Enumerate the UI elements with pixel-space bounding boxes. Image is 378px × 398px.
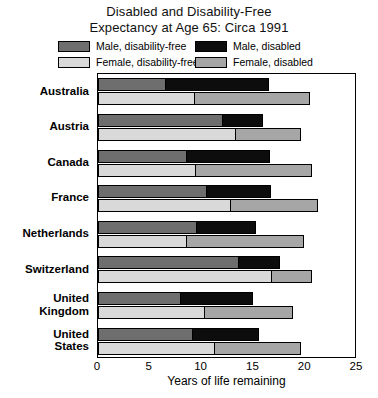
bar-segment-female-disability-free[interactable] (98, 128, 236, 141)
x-axis-ticks: 0510152025 (97, 359, 356, 375)
legend-swatch-male-disabled (195, 41, 227, 52)
y-axis-label-canada: Canada (47, 156, 89, 169)
y-axis-category-labels: AustraliaAustriaCanadaFranceNetherlandsS… (0, 73, 93, 358)
y-axis-label-united-states: United States (53, 328, 89, 353)
bar-segment-female-disabled[interactable] (194, 92, 310, 105)
bar-segment-female-disabled[interactable] (195, 164, 312, 177)
legend-swatch-female-disability-free (58, 57, 90, 68)
y-axis-label-france: France (51, 191, 89, 204)
bar-segment-female-disability-free[interactable] (98, 306, 205, 319)
y-axis-label-switzerland: Switzerland (25, 263, 89, 276)
bar-segment-female-disabled[interactable] (271, 270, 312, 283)
y-axis-label-united-kingdom: United Kingdom (39, 292, 89, 317)
bar-male[interactable] (98, 221, 255, 234)
legend-label-male-disability-free: Male, disability-free (96, 40, 186, 52)
bar-male[interactable] (98, 114, 262, 127)
bar-segment-male-disability-free[interactable] (98, 185, 207, 198)
legend-swatch-male-disability-free (58, 41, 90, 52)
bar-segment-male-disabled[interactable] (222, 114, 262, 127)
bar-segment-female-disabled[interactable] (230, 199, 318, 212)
bar-female[interactable] (98, 235, 303, 248)
bar-female[interactable] (98, 164, 311, 177)
bar-female[interactable] (98, 342, 300, 355)
x-axis-tick-0: 0 (94, 359, 100, 373)
bar-male[interactable] (98, 78, 268, 91)
bars-container (98, 74, 355, 357)
x-axis-tick-10: 10 (194, 359, 207, 373)
bar-female[interactable] (98, 306, 292, 319)
legend-label-male-disabled: Male, disabled (233, 40, 301, 52)
bar-segment-female-disabled[interactable] (204, 306, 293, 319)
bar-segment-female-disability-free[interactable] (98, 235, 187, 248)
chart-legend: Male, disability-free Male, disabled Fem… (58, 38, 358, 70)
bar-male[interactable] (98, 185, 270, 198)
bar-segment-male-disabled[interactable] (180, 292, 254, 305)
chart-title: Disabled and Disability-Free Expectancy … (0, 4, 378, 36)
x-axis-tick-15: 15 (246, 359, 259, 373)
bar-segment-male-disability-free[interactable] (98, 150, 187, 163)
y-axis-label-netherlands: Netherlands (23, 227, 89, 240)
bar-segment-female-disability-free[interactable] (98, 164, 196, 177)
bar-segment-male-disabled[interactable] (192, 328, 258, 341)
bar-segment-male-disability-free[interactable] (98, 221, 197, 234)
bar-segment-female-disabled[interactable] (214, 342, 301, 355)
legend-item-female-disabled: Female, disabled (195, 56, 358, 68)
x-axis-tick-20: 20 (298, 359, 311, 373)
bar-segment-male-disabled[interactable] (238, 256, 280, 269)
bar-male[interactable] (98, 256, 279, 269)
bar-segment-female-disability-free[interactable] (98, 270, 272, 283)
legend-item-male-disability-free: Male, disability-free (58, 40, 195, 52)
legend-swatch-female-disabled (195, 57, 227, 68)
bar-segment-female-disability-free[interactable] (98, 342, 215, 355)
bar-female[interactable] (98, 92, 309, 105)
plot-area (97, 73, 356, 358)
legend-item-male-disabled: Male, disabled (195, 40, 358, 52)
bar-segment-male-disability-free[interactable] (98, 328, 193, 341)
bar-segment-male-disability-free[interactable] (98, 78, 166, 91)
legend-label-female-disabled: Female, disabled (233, 56, 313, 68)
x-axis-title: Years of life remaining (97, 374, 356, 389)
bar-female[interactable] (98, 270, 311, 283)
bar-segment-male-disability-free[interactable] (98, 256, 239, 269)
bar-male[interactable] (98, 150, 269, 163)
bar-female[interactable] (98, 199, 317, 212)
bar-segment-female-disability-free[interactable] (98, 92, 195, 105)
bar-segment-female-disabled[interactable] (186, 235, 304, 248)
x-axis-tick-25: 25 (350, 359, 363, 373)
legend-item-female-disability-free: Female, disability-free (58, 56, 195, 68)
x-axis-tick-5: 5 (146, 359, 152, 373)
bar-segment-male-disability-free[interactable] (98, 292, 181, 305)
y-axis-label-australia: Australia (40, 85, 89, 98)
bar-segment-male-disabled[interactable] (186, 150, 270, 163)
bar-segment-female-disabled[interactable] (235, 128, 301, 141)
bar-male[interactable] (98, 328, 258, 341)
bar-female[interactable] (98, 128, 300, 141)
bar-segment-male-disabled[interactable] (196, 221, 255, 234)
bar-segment-male-disabled[interactable] (165, 78, 269, 91)
bar-segment-male-disability-free[interactable] (98, 114, 223, 127)
legend-label-female-disability-free: Female, disability-free (96, 56, 199, 68)
bar-male[interactable] (98, 292, 252, 305)
bar-segment-male-disabled[interactable] (206, 185, 271, 198)
chart-title-line-1: Disabled and Disability-Free (0, 4, 378, 20)
bar-segment-female-disability-free[interactable] (98, 199, 231, 212)
y-axis-label-austria: Austria (49, 120, 89, 133)
chart-title-line-2: Expectancy at Age 65: Circa 1991 (0, 20, 378, 36)
